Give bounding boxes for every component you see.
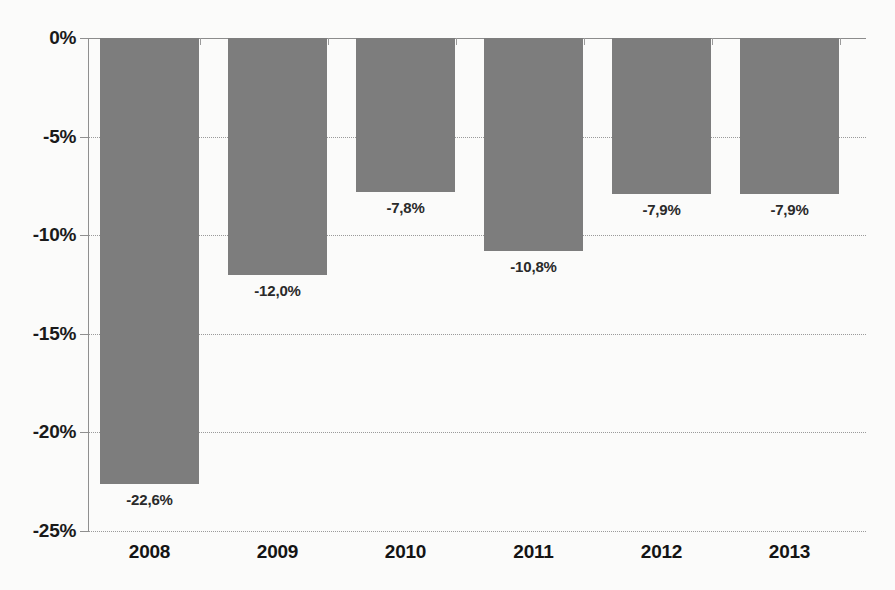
- bar-2010[interactable]: [356, 38, 455, 192]
- x-axis-label-2013: 2013: [726, 541, 853, 563]
- y-axis-label: -15%: [0, 323, 76, 345]
- y-axis-tick: [80, 137, 89, 138]
- bar-chart: 0%-5%-10%-15%-20%-25%-22,6%2008-12,0%200…: [0, 0, 895, 590]
- bar-2009[interactable]: [228, 38, 327, 275]
- x-axis-label-2009: 2009: [214, 541, 341, 563]
- y-axis-label: -20%: [0, 421, 76, 443]
- y-axis-label: 0%: [0, 27, 76, 49]
- bar-value-label-2010: -7,8%: [342, 199, 469, 216]
- zero-line-tick: [328, 38, 329, 45]
- zero-line-tick: [200, 38, 201, 45]
- x-axis-label-2012: 2012: [598, 541, 725, 563]
- x-axis-label-2008: 2008: [86, 541, 213, 563]
- y-axis-tick: [80, 235, 89, 236]
- bar-value-label-2011: -10,8%: [470, 258, 597, 275]
- gridline-neg15: [89, 334, 866, 335]
- zero-line-tick: [456, 38, 457, 45]
- bar-value-label-2012: -7,9%: [598, 201, 725, 218]
- bar-2013[interactable]: [740, 38, 839, 194]
- bar-2008[interactable]: [100, 38, 199, 484]
- gridline-neg25: [89, 531, 866, 532]
- bar-value-label-2008: -22,6%: [86, 491, 213, 508]
- bar-value-label-2013: -7,9%: [726, 201, 853, 218]
- y-axis-tick: [80, 334, 89, 335]
- bar-2011[interactable]: [484, 38, 583, 251]
- x-axis-label-2010: 2010: [342, 541, 469, 563]
- zero-line-tick: [712, 38, 713, 45]
- zero-line-tick: [584, 38, 585, 45]
- y-axis-label: -25%: [0, 520, 76, 542]
- y-axis-label: -5%: [0, 126, 76, 148]
- y-axis-tick: [80, 432, 89, 433]
- gridline-neg10: [89, 235, 866, 236]
- zero-line-tick: [840, 38, 841, 45]
- bar-2012[interactable]: [612, 38, 711, 194]
- y-axis-line: [88, 38, 89, 532]
- y-axis-tick: [80, 531, 89, 532]
- gridline-neg20: [89, 432, 866, 433]
- scan-artifact: [60, 55, 66, 75]
- y-axis-tick: [80, 38, 89, 39]
- y-axis-label: -10%: [0, 224, 76, 246]
- x-axis-label-2011: 2011: [470, 541, 597, 563]
- bar-value-label-2009: -12,0%: [214, 282, 341, 299]
